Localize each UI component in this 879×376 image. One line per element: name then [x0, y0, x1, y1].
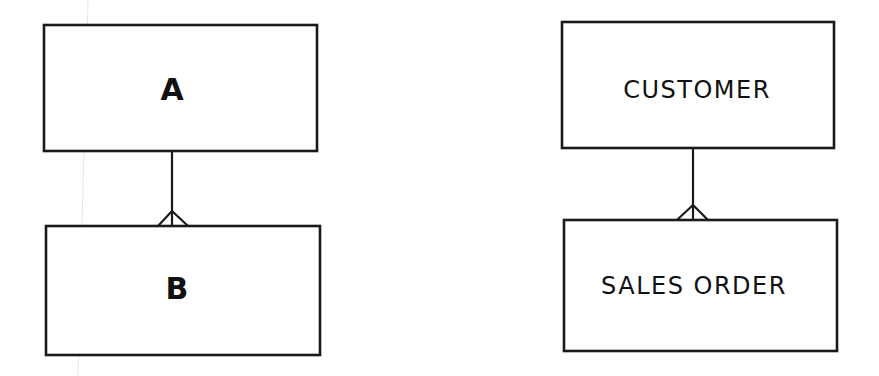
entity-sales-order-label: SALES ORDER — [601, 272, 787, 300]
diagram-example: CUSTOMER SALES ORDER — [562, 22, 837, 351]
er-diagram-canvas: A B CUSTOMER SALES ORDER — [0, 0, 879, 376]
diagram-generic: A B — [44, 25, 320, 355]
entity-a-label: A — [160, 72, 184, 107]
entity-b-label: B — [166, 271, 189, 306]
entity-customer-label: CUSTOMER — [623, 76, 771, 104]
